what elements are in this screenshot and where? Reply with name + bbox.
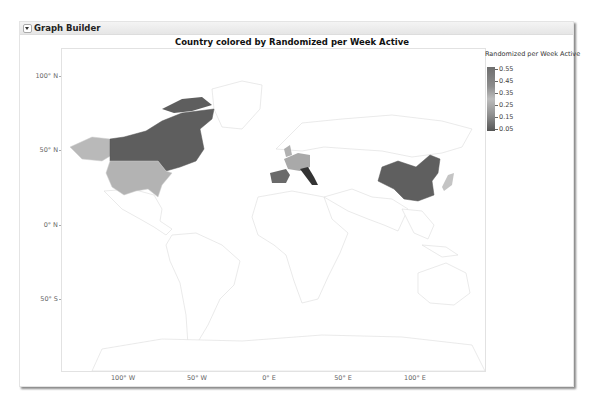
legend-color-bar[interactable]: [487, 67, 495, 131]
region-italy: [300, 167, 318, 185]
region-japan: [442, 173, 454, 191]
panel-header-label: Graph Builder: [34, 22, 100, 34]
legend-tick-label: 0.55: [499, 65, 513, 73]
x-tick-label: 100° W: [103, 374, 143, 382]
disclosure-triangle-icon[interactable]: [23, 24, 32, 33]
x-tick-label: 0° E: [249, 374, 289, 382]
legend-tick-label: 0.35: [499, 89, 513, 97]
legend-tick-label: 0.45: [499, 77, 513, 85]
region-alaska: [70, 137, 112, 161]
y-tick-label: 0° N: [20, 221, 58, 229]
x-tick-label: 50° W: [177, 374, 217, 382]
x-tick-label: 50° E: [323, 374, 363, 382]
world-map: [62, 49, 485, 371]
chart-title: Country colored by Randomized per Week A…: [80, 37, 504, 47]
region-china: [378, 155, 440, 201]
y-tick-label: 50° S: [20, 295, 58, 303]
region-spain: [270, 169, 290, 183]
y-tick-label: 50° N: [20, 146, 58, 154]
legend-tick-label: 0.05: [499, 125, 513, 133]
graph-builder-panel: Graph Builder Country colored by Randomi…: [19, 21, 574, 387]
legend-title: Randomized per Week Active: [485, 50, 580, 58]
x-tick-label: 100° E: [395, 374, 435, 382]
y-tick-label: 100° N: [20, 72, 58, 80]
legend-tick-label: 0.15: [499, 113, 513, 121]
legend-tick-label: 0.25: [499, 101, 513, 109]
map-plot-area[interactable]: [61, 48, 486, 372]
panel-header[interactable]: Graph Builder: [20, 22, 573, 35]
